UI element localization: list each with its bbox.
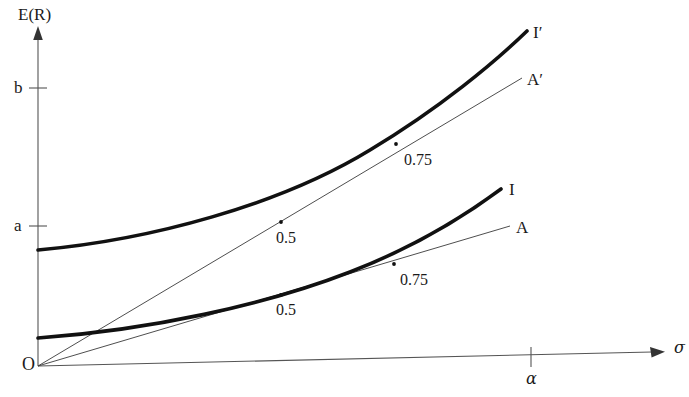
indifference-curve-i bbox=[38, 189, 501, 338]
y-axis-title: E(R) bbox=[18, 6, 51, 23]
origin-label: O bbox=[22, 355, 35, 373]
economics-risk-return-figure: E(R) σ O b a α I′ A′ I A 0.75 0.5 0.75 0… bbox=[0, 0, 689, 397]
fraction-label-a-prime-075: 0.75 bbox=[404, 152, 432, 168]
line-label-a-prime: A′ bbox=[527, 71, 543, 88]
fraction-marker-dots bbox=[279, 142, 398, 297]
fraction-label-a-075: 0.75 bbox=[400, 272, 428, 288]
y-tick-label-b: b bbox=[14, 79, 23, 96]
plot-canvas bbox=[0, 0, 689, 397]
curve-label-i: I bbox=[509, 181, 515, 198]
fraction-label-a-05: 0.5 bbox=[276, 302, 296, 318]
curve-label-i-prime: I′ bbox=[533, 24, 542, 41]
fraction-label-a-prime-05: 0.5 bbox=[276, 230, 296, 246]
line-label-a: A bbox=[516, 219, 528, 236]
x-axis-title: σ bbox=[674, 340, 685, 356]
indifference-curve-i-prime bbox=[38, 31, 527, 250]
y-axis bbox=[33, 26, 43, 366]
x-axis bbox=[38, 347, 665, 366]
y-tick-label-a: a bbox=[14, 217, 22, 234]
x-tick-label-alpha: α bbox=[526, 371, 537, 387]
